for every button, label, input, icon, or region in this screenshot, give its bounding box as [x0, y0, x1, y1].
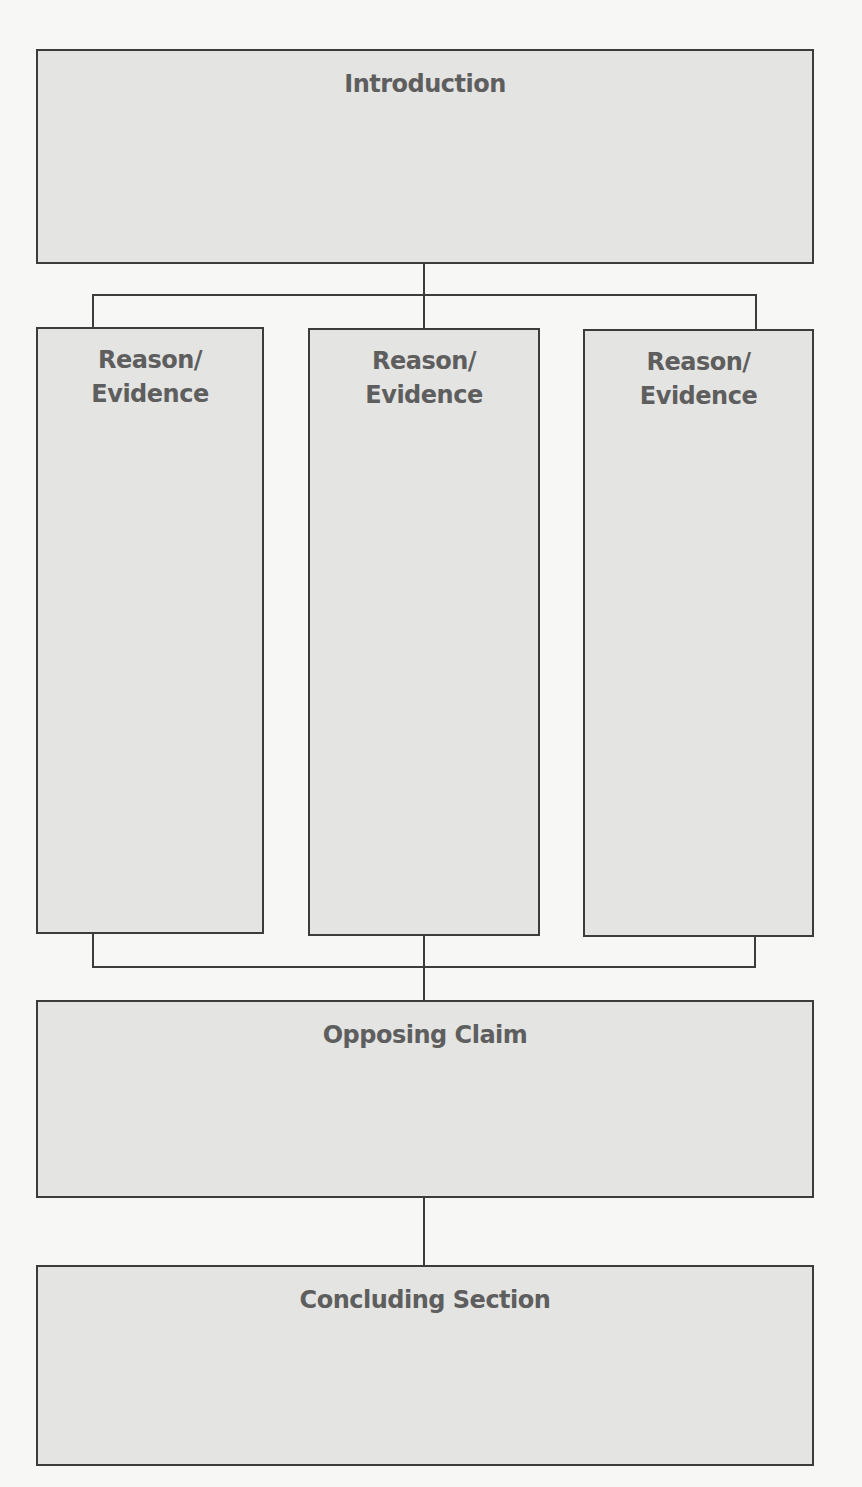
connector-bottom-bar — [92, 966, 756, 968]
connector-intro-down — [423, 263, 425, 296]
connector-top-right-drop — [755, 294, 757, 330]
reason-label-line2: Evidence — [640, 382, 757, 410]
introduction-box: Introduction — [36, 49, 814, 264]
connector-top-middle-drop — [423, 294, 425, 329]
reason-label-line2: Evidence — [365, 381, 482, 409]
opposing-claim-box: Opposing Claim — [36, 1000, 814, 1198]
reason-evidence-label-3: Reason/ Evidence — [585, 331, 812, 413]
opposing-claim-label: Opposing Claim — [38, 1002, 812, 1050]
reason-evidence-box-3: Reason/ Evidence — [583, 329, 814, 937]
reason-evidence-box-2: Reason/ Evidence — [308, 328, 540, 936]
connector-bottom-left-rise — [92, 933, 94, 968]
connector-bottom-middle — [423, 935, 425, 1001]
reason-evidence-label-1: Reason/ Evidence — [38, 329, 262, 411]
introduction-label: Introduction — [38, 51, 812, 99]
reason-evidence-label-2: Reason/ Evidence — [310, 330, 538, 412]
reason-label-line2: Evidence — [91, 380, 208, 408]
connector-opposing-to-conclusion — [423, 1197, 425, 1266]
concluding-section-label: Concluding Section — [38, 1267, 812, 1315]
concluding-section-box: Concluding Section — [36, 1265, 814, 1466]
reason-label-line1: Reason/ — [98, 346, 202, 374]
reason-evidence-box-1: Reason/ Evidence — [36, 327, 264, 934]
connector-top-left-drop — [92, 294, 94, 328]
reason-label-line1: Reason/ — [646, 348, 750, 376]
connector-bottom-right-rise — [754, 936, 756, 968]
reason-label-line1: Reason/ — [372, 347, 476, 375]
